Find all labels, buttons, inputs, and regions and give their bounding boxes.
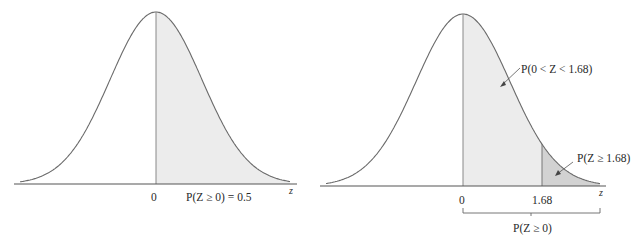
left-tick-zero: 0 <box>151 192 157 204</box>
left-shaded-right-half <box>156 12 290 184</box>
middle-region-label: P(0 < Z < 1.68) <box>521 64 592 76</box>
normal-distribution-diagrams <box>0 0 640 245</box>
left-z-axis-label: z <box>289 186 293 196</box>
right-tick-zero: 0 <box>459 195 465 207</box>
tail-region-label: P(Z ≥ 1.68) <box>577 153 630 165</box>
right-shaded-middle-region <box>463 14 542 186</box>
right-z-axis-label: z <box>599 188 603 198</box>
left-probability-label: P(Z ≥ 0) = 0.5 <box>186 192 252 204</box>
right-tick-168: 1.68 <box>532 195 552 207</box>
bracket-label: P(Z ≥ 0) <box>513 223 552 235</box>
left-normal-curve-panel <box>14 12 297 184</box>
p-z-ge-0-bracket <box>463 208 600 213</box>
right-normal-curve-panel <box>320 14 606 216</box>
right-shaded-tail-region <box>542 144 600 186</box>
left-bell-curve <box>20 12 290 182</box>
